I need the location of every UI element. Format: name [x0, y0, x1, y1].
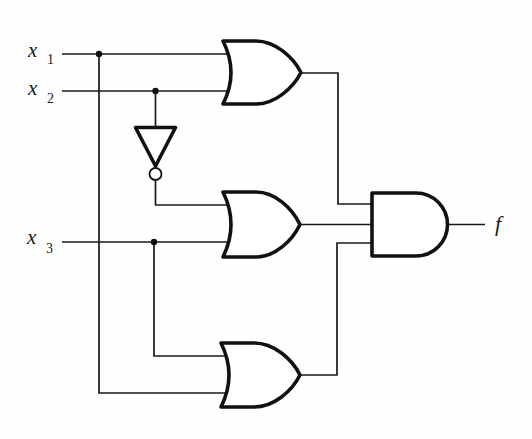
junction-x1 [96, 51, 102, 57]
or-gate-3 [221, 343, 300, 407]
input-label-x2: x 2 [27, 76, 54, 106]
output-label-f: f [495, 211, 504, 236]
wire-not-to-or2 [156, 180, 230, 205]
wire-x1-to-or3 [99, 54, 228, 393]
or-gate-1 [223, 41, 301, 104]
not-gate-triangle-icon [136, 128, 176, 167]
and-gate [372, 193, 448, 256]
input-x2-name: x [27, 76, 38, 100]
or-gate-2 [223, 192, 300, 257]
junction-x3 [151, 239, 157, 245]
logic-circuit-diagram: x 1 x 2 x 3 [0, 0, 532, 439]
input-label-x3: x 3 [26, 225, 53, 256]
circuit-canvas: x 1 x 2 x 3 [0, 0, 532, 439]
input-x1-name: x [27, 38, 38, 62]
input-label-x1: x 1 [27, 38, 54, 67]
input-x3-subscript: 3 [46, 241, 53, 256]
wire-or3-to-and [300, 243, 372, 375]
wire-or1-to-and [301, 73, 372, 204]
input-x1-subscript: 1 [47, 52, 54, 67]
not-gate [136, 128, 176, 181]
not-gate-bubble-icon [150, 168, 162, 180]
wire-x3-to-or3 [154, 242, 228, 356]
input-x3-name: x [26, 225, 37, 249]
input-x2-subscript: 2 [47, 91, 54, 106]
junction-x2 [152, 88, 158, 94]
